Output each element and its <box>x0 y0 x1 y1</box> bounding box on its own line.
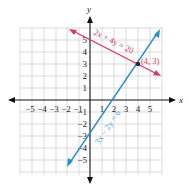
y-tick: 4 <box>83 47 88 57</box>
y-axis-top-arrow-icon <box>87 16 93 23</box>
x-axis-right-arrow-icon <box>169 97 176 103</box>
x-tick: 3 <box>124 104 129 114</box>
line-3x-minus-2y-eq-6: 3x − 2y = 6 <box>67 29 160 167</box>
y-tick: −2 <box>77 119 87 129</box>
y-tick: −5 <box>77 155 87 165</box>
y-axis-bottom-arrow-icon <box>87 177 93 184</box>
y-tick: 1 <box>83 83 88 93</box>
x-tick: −3 <box>49 104 59 114</box>
y-axis-label: y <box>86 4 91 14</box>
x-tick: −4 <box>37 104 47 114</box>
x-tick: 5 <box>148 104 153 114</box>
x-axis-label: x <box>178 95 183 105</box>
x-tick-labels: −5 −4 −3 −2 −1 1 2 3 4 5 <box>25 104 153 114</box>
coordinate-plane: x y −5 −4 −3 −2 −1 1 2 3 4 5 5 4 3 2 1 −… <box>0 0 189 190</box>
grid <box>20 27 162 175</box>
x-tick: 4 <box>136 104 141 114</box>
x-axis-left-arrow-icon <box>8 97 15 103</box>
intersection-label: (4, 3) <box>141 56 160 66</box>
x-tick: −2 <box>61 104 71 114</box>
intersection-point <box>136 62 141 67</box>
x-axis <box>8 97 176 103</box>
y-tick: −1 <box>77 107 87 117</box>
y-tick: 2 <box>83 71 88 81</box>
blue-equation-label: 3x − 2y = 6 <box>92 108 122 146</box>
y-tick: 3 <box>83 59 88 69</box>
x-tick: −5 <box>25 104 35 114</box>
